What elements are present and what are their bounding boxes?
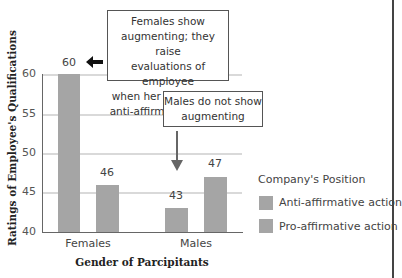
legend-title: Company's Position [258, 173, 365, 186]
frame-border-right [392, 0, 394, 278]
annotation-females: Females show augmenting; they raise eval… [107, 10, 229, 81]
y-tick-55: 55 [18, 107, 36, 120]
annotation-females-line: augmenting; they raise [108, 29, 228, 59]
y-tick-45: 45 [18, 185, 36, 198]
legend-label-anti: Anti-affirmative action [279, 196, 402, 209]
value-label-males-pro: 47 [200, 157, 230, 170]
x-category-females: Females [53, 237, 123, 250]
y-tick-40: 40 [18, 225, 36, 238]
value-label-females-pro: 46 [92, 166, 122, 179]
y-tick-50: 50 [18, 146, 36, 159]
x-axis-line [42, 232, 243, 233]
annotation-females-line: evaluations of employee [108, 59, 228, 89]
x-axis-label: Gender of Parcipitants [42, 256, 242, 268]
annotation-males-line: augmenting [164, 109, 262, 124]
value-label-females-anti: 60 [54, 56, 84, 69]
bar-males-anti [165, 208, 188, 232]
annotation-males: Males do not show augmenting [163, 91, 263, 127]
x-category-males: Males [161, 237, 231, 250]
bar-males-pro [204, 177, 227, 232]
y-tick-60: 60 [18, 67, 36, 80]
legend-swatch-anti [259, 196, 273, 210]
annotation-females-line: Females show [108, 14, 228, 29]
arrow-down-icon [171, 131, 183, 171]
arrow-left-icon [86, 56, 104, 68]
bar-females-pro [96, 185, 119, 232]
y-axis-label: Ratings of Employee's Qualifications [6, 30, 18, 246]
legend-swatch-pro [259, 219, 273, 233]
legend-label-pro: Pro-affirmative action [279, 220, 398, 233]
bar-females-anti [58, 74, 80, 232]
y-axis-line [42, 74, 43, 233]
value-label-males-anti: 43 [161, 189, 191, 202]
annotation-males-line: Males do not show [164, 94, 262, 109]
